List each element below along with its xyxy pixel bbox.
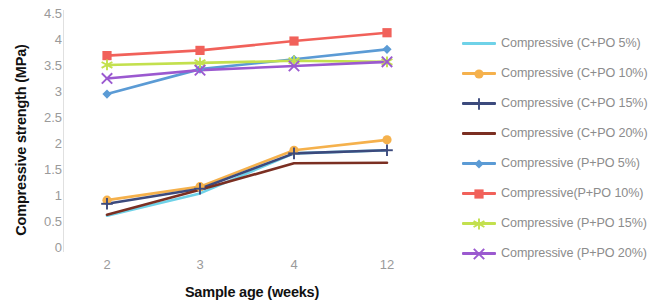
legend-label: Compressive (C+PO 10%) [501,66,648,80]
legend-label: Compressive (C+PO 15%) [501,96,648,110]
series-line [107,33,387,56]
legend-label: Compressive (P+PO 15%) [501,216,647,230]
legend-item[interactable]: Compressive (C+PO 20%) [462,118,655,148]
legend-label: Compressive (C+PO 20%) [501,126,648,140]
legend-label: Compressive(P+PO 10%) [501,186,643,200]
legend-swatch-plus-icon [462,95,496,111]
legend-marker-icon [473,158,485,170]
legend-swatch-diamond-icon [462,155,496,171]
data-point-square [474,189,483,198]
data-point-square [382,28,391,37]
legend-marker-icon [473,188,485,200]
line-chart: Compressive strength (MPa) 00.511.522.53… [0,0,655,308]
data-point-square [102,51,111,60]
legend-item[interactable]: Compressive (P+PO 15%) [462,208,655,238]
legend-swatch-none-icon [462,35,496,51]
data-point-diamond [382,45,391,54]
legend-swatch-circle-icon [462,65,496,81]
legend-label: Compressive (P+PO 20%) [501,246,647,260]
legend-swatch-cross-icon [462,245,496,261]
legend-marker-icon [473,218,485,230]
legend-marker-icon [473,68,485,80]
data-point-cross [474,249,484,259]
data-point-diamond [102,89,111,98]
legend-item[interactable]: Compressive (C+PO 5%) [462,28,655,58]
legend-item[interactable]: Compressive(P+PO 10%) [462,178,655,208]
legend-item[interactable]: Compressive (P+PO 20%) [462,238,655,268]
data-point-plus [381,144,393,156]
legend-item[interactable]: Compressive (C+PO 15%) [462,88,655,118]
series-markers [102,28,391,60]
legend-swatch-square-icon [462,185,496,201]
legend-swatch-none-icon [462,125,496,141]
legend-label: Compressive (C+PO 5%) [501,36,641,50]
data-point-plus [473,98,485,110]
legend-label: Compressive (P+PO 5%) [501,156,640,170]
legend-item[interactable]: Compressive (C+PO 10%) [462,58,655,88]
legend-swatch-star-icon [462,215,496,231]
data-point-circle [474,69,483,78]
data-point-square [195,46,204,55]
series-line [107,49,387,94]
chart-legend: Compressive (C+PO 5%)Compressive (C+PO 1… [462,28,655,268]
data-point-circle [382,135,391,144]
data-point-square [289,36,298,45]
legend-item[interactable]: Compressive (P+PO 5%) [462,148,655,178]
legend-marker-icon [473,98,485,110]
series-line [107,150,387,216]
legend-marker-icon [473,248,485,260]
data-point-star [474,219,485,230]
data-point-diamond [474,159,483,168]
